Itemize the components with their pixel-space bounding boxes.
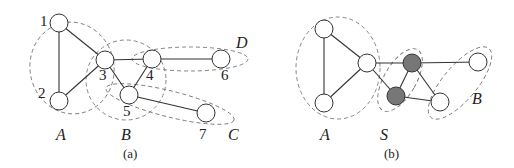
panel-a-edges <box>59 23 221 113</box>
group-label: D <box>235 34 248 51</box>
graph-node <box>315 20 333 38</box>
panel-b-nodes <box>315 20 487 112</box>
group-label: B <box>472 90 482 107</box>
graph-node <box>387 87 405 105</box>
graph-node <box>358 54 376 72</box>
node-label: 5 <box>123 103 131 119</box>
group-label: B <box>121 126 131 143</box>
caption-b: (b) <box>384 146 399 161</box>
graph-node <box>431 93 449 111</box>
graph-node <box>143 50 161 68</box>
graph-node <box>50 92 68 110</box>
graph-node <box>197 104 215 122</box>
node-label: 2 <box>38 85 46 101</box>
group-label: A <box>55 126 66 143</box>
graph-node <box>212 50 230 68</box>
panel-a-nodes <box>50 14 230 122</box>
graph-node <box>120 86 138 104</box>
graph-node <box>315 94 333 112</box>
edge <box>412 62 478 63</box>
graph-node <box>50 14 68 32</box>
node-label: 6 <box>221 67 229 83</box>
group-label: C <box>228 126 239 143</box>
group-s-outline <box>369 42 432 119</box>
graph-node <box>469 53 487 71</box>
group-label: S <box>380 126 388 143</box>
node-label: 1 <box>40 13 48 29</box>
graph-diagram: 1234567 ABCD (a) ASB (b) <box>0 0 514 168</box>
node-label: 3 <box>99 67 107 83</box>
caption-a: (a) <box>123 146 137 161</box>
group-b-outline <box>418 38 502 129</box>
group-label: A <box>319 126 330 143</box>
graph-node <box>403 54 421 72</box>
node-label: 4 <box>146 67 154 83</box>
edge <box>129 95 206 113</box>
node-label: 7 <box>199 126 207 142</box>
